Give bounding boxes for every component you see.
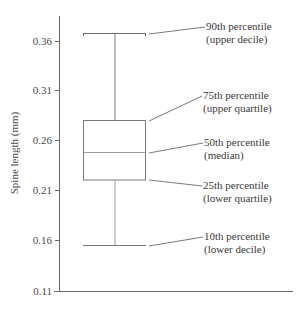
iqr-box — [84, 121, 146, 181]
leader-p25 — [149, 180, 202, 186]
y-axis-label: Spine length (mm) — [8, 93, 20, 213]
y-tick-label: 0.11 — [18, 285, 52, 297]
annotation-p25: 25th percentile (lower quartile) — [203, 179, 272, 205]
y-tick-label: 0.36 — [18, 35, 52, 47]
annotation-p75-title: 75th percentile — [203, 89, 272, 102]
annotation-p75: 75th percentile (upper quartile) — [203, 89, 272, 115]
annotation-p90-title: 90th percentile — [206, 20, 272, 33]
y-tick-label: 0.31 — [18, 84, 52, 96]
annotation-p10-subtitle: (lower decile) — [204, 243, 270, 256]
annotation-p25-subtitle: (lower quartile) — [203, 192, 272, 205]
leader-lines — [149, 27, 205, 246]
annotation-p90: 90th percentile (upper decile) — [206, 20, 272, 46]
annotation-p10: 10th percentile (lower decile) — [204, 230, 270, 256]
leader-p90 — [149, 27, 205, 34]
annotation-p50-subtitle: (median) — [204, 149, 270, 162]
annotation-p25-title: 25th percentile — [203, 179, 272, 192]
y-tick-label: 0.16 — [18, 234, 52, 246]
y-ticks — [55, 42, 60, 241]
annotation-p50-title: 50th percentile — [204, 136, 270, 149]
leader-p75 — [149, 96, 202, 121]
annotation-p75-subtitle: (upper quartile) — [203, 102, 272, 115]
annotation-p50: 50th percentile (median) — [204, 136, 270, 162]
y-tick-label: 0.21 — [18, 184, 52, 196]
annotation-p90-subtitle: (upper decile) — [206, 33, 272, 46]
leader-p50 — [149, 143, 203, 153]
annotation-p10-title: 10th percentile — [204, 230, 270, 243]
leader-p10 — [149, 237, 203, 246]
y-tick-label: 0.26 — [18, 134, 52, 146]
